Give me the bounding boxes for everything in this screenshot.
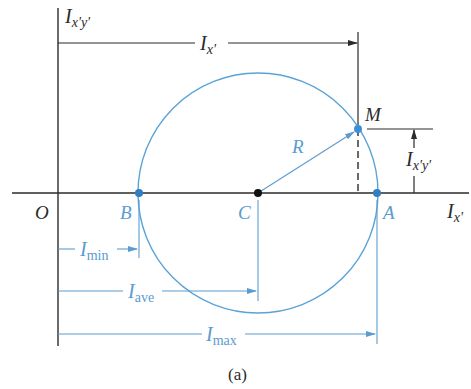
label-c: C [238,202,251,223]
radius-line [258,132,354,193]
point-m [354,125,362,133]
figure-caption: (a) [228,365,247,384]
mohrs-circle-diagram: Ix'y' Ix' O Ix' R Ix'y' B C A M Imin [0,0,471,389]
ixy-dimension-label: Ix'y' [405,148,432,173]
imin-label: Imin [79,238,108,263]
vertical-axis-label: Ix'y' [64,5,91,30]
ix-dimension-label: Ix' [199,32,217,57]
origin-label: O [35,202,49,223]
point-a [373,189,381,197]
point-b [135,189,143,197]
label-a: A [381,202,395,223]
point-c [254,189,262,197]
horizontal-axis-label: Ix' [446,200,464,225]
radius-label: R [291,136,304,157]
label-b: B [120,202,132,223]
label-m: M [364,104,382,125]
iave-label: Iave [127,280,154,305]
imax-label: Imax [205,323,237,348]
